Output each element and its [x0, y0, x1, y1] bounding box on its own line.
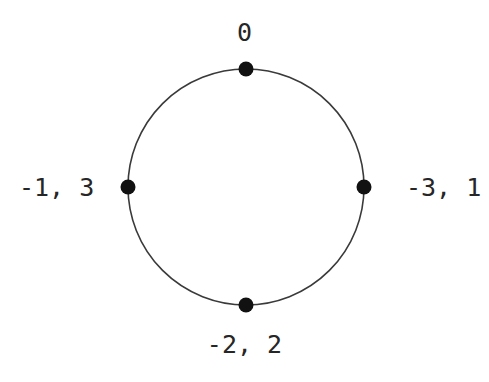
- diagram-canvas: 0 -3, 1 -2, 2 -1, 3: [0, 0, 489, 382]
- node-label-bottom: -2, 2: [0, 332, 489, 357]
- cycle-circle: [128, 69, 364, 305]
- node-dot-bottom[interactable]: [239, 298, 254, 313]
- node-dot-left[interactable]: [121, 180, 136, 195]
- node-dot-top[interactable]: [239, 62, 254, 77]
- node-dot-right[interactable]: [357, 180, 372, 195]
- node-label-right: -3, 1: [395, 175, 489, 200]
- node-label-top: 0: [0, 20, 489, 45]
- node-label-left: -1, 3: [0, 175, 108, 200]
